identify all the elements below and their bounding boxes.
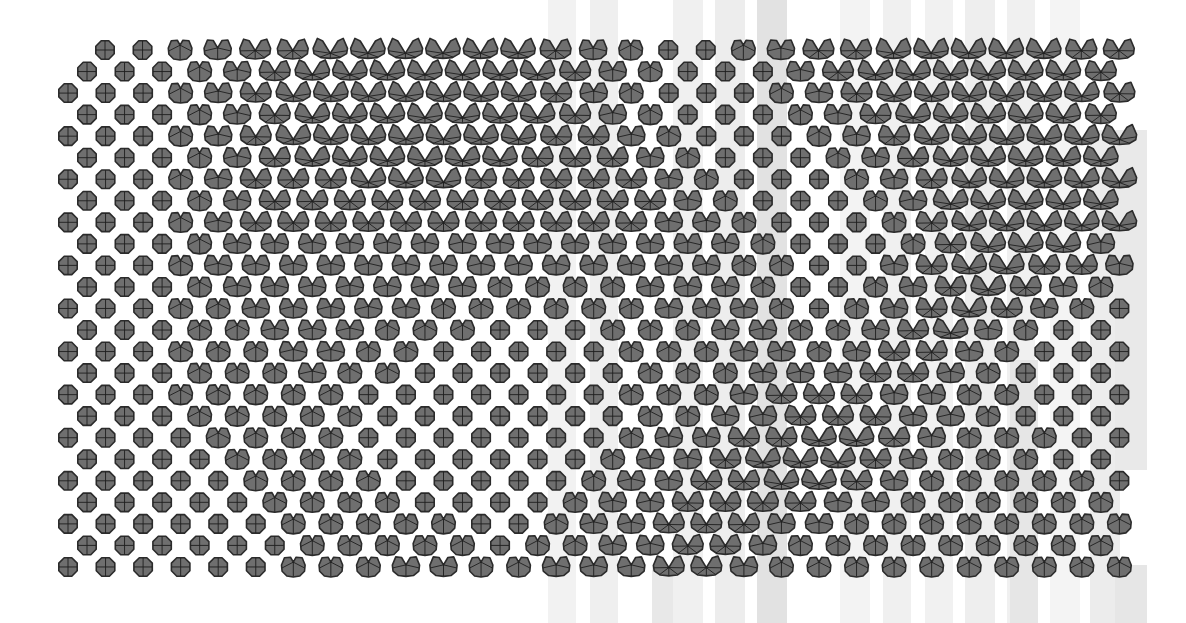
octagon-shape (115, 536, 134, 555)
v-shape (336, 234, 363, 254)
octagon-shape (359, 429, 377, 448)
wide-bowtie-shape (408, 60, 442, 80)
octagon-shape (866, 235, 885, 254)
notched-shape (301, 406, 325, 426)
notched-shape (169, 256, 193, 276)
notched-shape (789, 536, 813, 556)
octagon-shape (810, 213, 828, 232)
notched-shape (225, 363, 249, 383)
octagon-shape (397, 472, 416, 490)
notched-shape (1070, 299, 1094, 319)
octagon-shape (153, 105, 171, 124)
wide-bowtie-shape (989, 38, 1023, 58)
v-shape (900, 191, 927, 211)
v-shape (712, 320, 739, 340)
v-shape (881, 169, 908, 189)
notched-shape (976, 450, 1000, 470)
bowtie-shape (541, 168, 572, 188)
octagon-shape (1092, 321, 1111, 340)
bowtie-shape (879, 341, 910, 361)
notched-shape (657, 126, 681, 146)
notched-shape (563, 536, 587, 556)
notched-shape (995, 514, 1019, 534)
notched-shape (1014, 536, 1038, 556)
notched-shape (1070, 514, 1094, 534)
wide-bowtie-shape (313, 38, 347, 58)
octagon-shape (59, 84, 77, 103)
v-shape (299, 277, 326, 297)
bowtie-shape (653, 513, 684, 533)
octagon-shape (115, 62, 134, 81)
v-shape (824, 105, 851, 125)
octagon-shape (171, 472, 190, 490)
octagon-shape (491, 407, 510, 426)
wide-bowtie-shape (971, 146, 1005, 166)
octagon-shape (96, 342, 115, 361)
wide-bowtie-shape (295, 103, 329, 123)
octagon-shape (171, 429, 190, 448)
octagon-shape (772, 127, 791, 145)
octagon-shape (96, 256, 115, 274)
v-shape (317, 342, 344, 362)
bowtie-shape (578, 168, 609, 188)
notched-shape (957, 514, 981, 534)
bowtie-shape (560, 190, 591, 210)
wide-bowtie-shape (1009, 232, 1043, 252)
bowtie-shape (560, 104, 591, 124)
octagon-shape (1110, 472, 1128, 490)
notched-shape (845, 557, 869, 577)
v-shape (261, 320, 288, 340)
v-shape (937, 363, 964, 383)
wide-bowtie-shape (426, 168, 460, 188)
octagon-shape (133, 41, 152, 59)
v-shape (224, 105, 251, 125)
octagon-shape (679, 62, 697, 81)
wide-bowtie-shape (1046, 103, 1080, 123)
notched-shape (638, 363, 662, 383)
wide-bowtie-shape (952, 168, 986, 188)
octagon-shape (59, 429, 77, 448)
bowtie-shape (710, 535, 741, 555)
v-shape (543, 255, 570, 275)
wide-bowtie-shape (501, 38, 535, 58)
octagon-shape (115, 450, 134, 469)
v-shape (881, 255, 908, 275)
octagon-shape (59, 558, 77, 577)
notched-shape (188, 62, 212, 82)
v-shape (862, 492, 889, 512)
wide-bowtie-shape (408, 146, 442, 166)
notched-shape (225, 450, 249, 470)
v-shape (205, 126, 232, 146)
notched-shape (1033, 471, 1057, 491)
octagon-shape (134, 213, 152, 232)
bowtie-shape (578, 125, 609, 145)
octagon-shape (59, 342, 77, 361)
bowtie-shape (278, 211, 309, 231)
notched-shape (526, 536, 550, 556)
notched-shape (301, 493, 325, 513)
v-shape (242, 298, 269, 318)
octagon-shape (378, 450, 396, 469)
notched-shape (169, 83, 193, 103)
octagon-shape (134, 558, 152, 577)
v-shape (374, 234, 401, 254)
notched-shape (845, 170, 869, 190)
octagon-shape (491, 364, 510, 382)
v-shape (843, 126, 870, 146)
wide-bowtie-shape (952, 297, 986, 317)
octagon-shape (416, 450, 435, 469)
bowtie-shape (916, 298, 947, 318)
bowtie-shape (1066, 39, 1097, 59)
octagon-shape (134, 256, 152, 274)
bowtie-shape (353, 211, 384, 231)
notched-shape (995, 557, 1019, 577)
wide-bowtie-shape (389, 125, 423, 145)
notched-shape (507, 557, 531, 577)
v-shape (881, 385, 908, 405)
octagon-shape (416, 493, 435, 512)
octagon-shape (735, 170, 753, 189)
notched-shape (319, 385, 343, 405)
octagon-shape (528, 321, 546, 340)
octagon-shape (416, 407, 435, 426)
wide-bowtie-shape (896, 103, 930, 123)
